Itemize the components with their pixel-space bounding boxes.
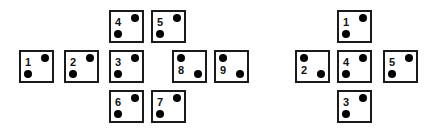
tile-5: 5: [383, 50, 418, 83]
dot-icon: [342, 70, 350, 78]
tile-3: 3: [337, 90, 372, 123]
dot-icon: [405, 54, 413, 62]
dot-icon: [359, 94, 367, 102]
tile-label: 5: [389, 57, 395, 68]
dot-icon: [342, 110, 350, 118]
tile-1: 1: [337, 10, 372, 43]
dot-icon: [388, 70, 396, 78]
dot-icon: [317, 70, 325, 78]
dot-icon: [300, 54, 308, 62]
tile-label: 4: [343, 57, 349, 68]
right-net: 1 2 4 5 3: [0, 0, 441, 129]
tile-label: 2: [301, 65, 307, 76]
dot-icon: [342, 30, 350, 38]
tile-2: 2: [295, 50, 330, 83]
tile-label: 1: [343, 17, 349, 28]
tile-label: 3: [343, 97, 349, 108]
dot-icon: [359, 54, 367, 62]
tile-4: 4: [337, 50, 372, 83]
dot-icon: [359, 14, 367, 22]
